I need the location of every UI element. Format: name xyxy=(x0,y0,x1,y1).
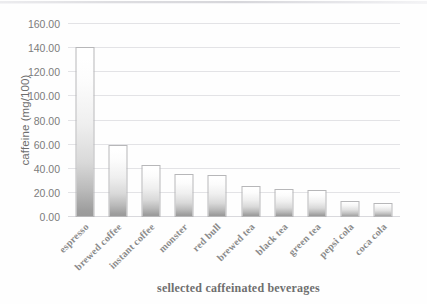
y-axis-tick-label: 140.00 xyxy=(28,42,60,54)
y-axis-tick-label: 60.00 xyxy=(34,139,60,151)
bar-series xyxy=(68,24,400,217)
bar-espresso[interactable] xyxy=(75,47,94,217)
bar-slot xyxy=(234,24,267,217)
x-axis-title-text: sellected caffeinated beverages xyxy=(157,281,320,296)
caffeine-bar-chart: caffeine (mg/100) 0.0020.0040.0060.0080.… xyxy=(0,0,427,304)
y-axis-tick-label: 40.00 xyxy=(34,163,60,175)
x-axis-title: sellected caffeinated beverages xyxy=(0,281,427,296)
bar-slot xyxy=(201,24,234,217)
bar-slot xyxy=(101,24,134,217)
bar-slot xyxy=(334,24,367,217)
scan-artifact-line-secondary xyxy=(0,3,427,4)
bar-slot xyxy=(367,24,400,217)
plot-area xyxy=(68,24,400,217)
y-axis-tick-label: 120.00 xyxy=(28,66,60,78)
bar-slot xyxy=(68,24,101,217)
y-axis-tick-label: 80.00 xyxy=(34,115,60,127)
x-label-slot: coca cola xyxy=(367,219,400,277)
y-axis-tick-label: 0.00 xyxy=(40,211,60,223)
x-axis-category-labels: espressobrewed coffeeinstant coffeemonst… xyxy=(68,219,400,277)
y-axis-tick-labels: 0.0020.0040.0060.0080.00100.00120.00140.… xyxy=(0,24,64,217)
y-axis-tick-label: 160.00 xyxy=(28,18,60,30)
y-axis-tick-label: 100.00 xyxy=(28,90,60,102)
y-axis-tick-label: 20.00 xyxy=(34,187,60,199)
bar-slot xyxy=(300,24,333,217)
